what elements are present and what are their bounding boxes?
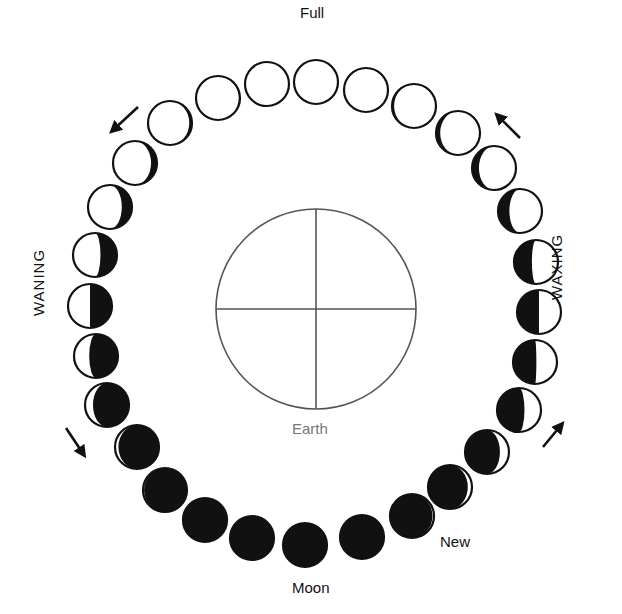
new-moon-label: New (440, 533, 470, 550)
moon-phase-icon (148, 101, 192, 145)
moon-phase-icon (436, 111, 480, 155)
moon-phase-icon (230, 516, 274, 560)
earth-label: Earth (292, 420, 328, 437)
moon-phase-icon (390, 494, 434, 538)
moon-phase-icon (294, 60, 338, 104)
moon-phase-icon (472, 146, 516, 190)
moon-phase-icon (113, 141, 157, 185)
arrow-waxing-bottom-icon (543, 424, 562, 447)
arrow-waxing-top-icon (497, 115, 520, 138)
moon-phase-icon (74, 334, 118, 378)
moon-phase-icon (392, 84, 436, 128)
full-moon-label: Full (300, 4, 324, 21)
moon-phase-icon (428, 465, 472, 509)
moon-phase-icon (115, 425, 159, 469)
moon-phase-icon (498, 189, 542, 233)
moon-phase-icon (85, 383, 129, 427)
moon-phase-diagram (0, 0, 622, 614)
waxing-label: WAXING (548, 234, 565, 300)
moon-phase-icon (283, 523, 327, 567)
arrow-waning-bottom-icon (66, 428, 84, 455)
moon-phase-icon (68, 284, 112, 328)
arrow-waning-top-icon (112, 107, 138, 131)
moon-phase-icon (196, 76, 240, 120)
moon-phase-icon (513, 340, 557, 384)
moon-label: Moon (292, 579, 330, 596)
moon-phase-icon (245, 62, 289, 106)
moon-phase-icon (344, 68, 388, 112)
moon-phase-icon (88, 185, 132, 229)
moon-phase-icon (340, 515, 384, 559)
moon-phase-icon (143, 468, 187, 512)
moon-phase-icon (465, 430, 509, 474)
earth-globe (216, 209, 416, 409)
moon-orbit (68, 60, 561, 567)
moon-phase-icon (73, 233, 117, 277)
waning-label: WANING (30, 249, 47, 316)
moon-phase-icon (183, 498, 227, 542)
moon-phase-icon (497, 388, 541, 432)
